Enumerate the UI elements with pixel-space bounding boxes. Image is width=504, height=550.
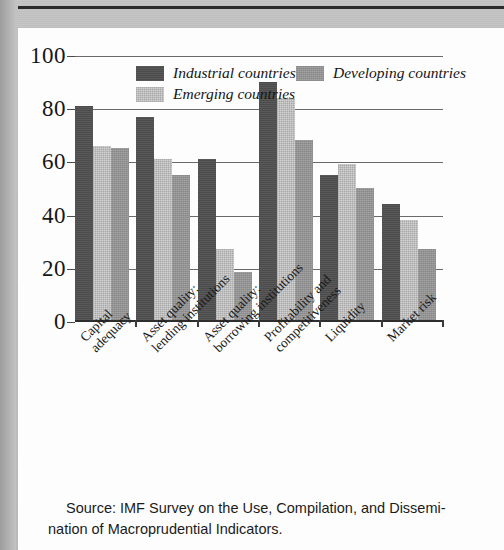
bar-group xyxy=(75,56,136,320)
bar xyxy=(154,159,172,320)
y-axis-tickmark-0 xyxy=(67,322,75,323)
y-axis-tickmark-80 xyxy=(67,109,75,110)
y-axis-tick-label-60: 60 xyxy=(42,149,66,175)
source-line-2: nation of Macroprudential Indicators. xyxy=(48,521,283,537)
x-axis-tickmark xyxy=(381,320,383,327)
y-axis-tick-label-80: 80 xyxy=(42,96,66,122)
legend-label-industrial: Industrial countries xyxy=(173,64,296,82)
article-page-card: 100806040200 Industrial countries Develo… xyxy=(18,28,504,550)
y-axis-tick-label-20: 20 xyxy=(42,256,66,282)
legend-row-1: Industrial countries Developing countrie… xyxy=(136,64,466,82)
bar-chart: 100806040200 Industrial countries Develo… xyxy=(18,28,504,358)
bar xyxy=(93,146,111,320)
y-axis-tick-label-0: 0 xyxy=(54,309,66,335)
bar xyxy=(382,204,400,320)
legend-item-industrial-countries: Industrial countries xyxy=(136,64,296,82)
bar xyxy=(136,117,154,320)
bar xyxy=(75,106,93,320)
legend-swatch-developing-icon xyxy=(296,66,324,81)
legend-item-emerging-countries: Emerging countries xyxy=(136,85,308,103)
y-axis-tickmark-100 xyxy=(67,56,75,57)
bar xyxy=(338,164,356,320)
x-axis-tickmark xyxy=(258,320,260,327)
x-axis-tickmark xyxy=(442,320,444,327)
y-axis-tickmark-40 xyxy=(67,216,75,217)
x-axis-category-labels: CapitaladequacyAsset quality:lending ins… xyxy=(75,328,443,468)
legend-label-developing: Developing countries xyxy=(333,64,466,82)
y-axis-tick-label-100: 100 xyxy=(30,43,66,69)
x-axis-tickmark xyxy=(319,320,321,327)
legend-item-developing-countries: Developing countries xyxy=(296,64,466,82)
x-axis-tickmark xyxy=(135,320,137,327)
source-line-1: Source: IMF Survey on the Use, Compilati… xyxy=(66,500,446,516)
y-axis-tickmark-60 xyxy=(67,162,75,163)
bar xyxy=(111,148,129,320)
legend-swatch-industrial-icon xyxy=(136,66,164,81)
page-left-edge-shadow xyxy=(0,0,16,550)
chart-legend: Industrial countries Developing countrie… xyxy=(136,64,466,106)
x-axis-tickmark xyxy=(197,320,199,327)
legend-swatch-emerging-icon xyxy=(136,87,164,102)
source-note: Source: IMF Survey on the Use, Compilati… xyxy=(48,498,478,540)
top-horizontal-rule xyxy=(18,6,504,9)
y-axis-tick-label-40: 40 xyxy=(42,203,66,229)
legend-row-2: Emerging countries xyxy=(136,85,466,103)
y-axis-tickmark-20 xyxy=(67,269,75,270)
legend-label-emerging: Emerging countries xyxy=(173,85,295,103)
